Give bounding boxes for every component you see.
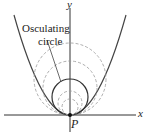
x-axis-label: x (138, 107, 143, 119)
annotation-label-line1: Osculating (22, 22, 70, 34)
y-axis-label: y (67, 0, 72, 10)
point-p-label: P (71, 117, 78, 132)
osculating-circle-diagram: y x P Osculating circle (0, 0, 148, 138)
annotation-label-line2: circle (38, 35, 62, 47)
